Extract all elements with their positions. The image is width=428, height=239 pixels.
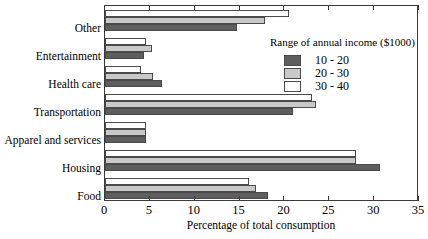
bar (105, 178, 249, 185)
legend-label: 30 - 40 (315, 80, 349, 93)
bar (105, 129, 146, 136)
x-axis-tick-top (104, 5, 105, 10)
x-axis-tick (418, 196, 419, 201)
x-axis-tick-top (194, 5, 195, 10)
x-axis-title: Percentage of total consumption (104, 219, 418, 232)
y-axis-label: Entertainment (36, 50, 101, 62)
bar (105, 108, 293, 115)
x-axis-tick (104, 196, 105, 201)
legend-item: 20 - 30 (284, 67, 420, 80)
bar (105, 122, 146, 129)
y-axis-label: Health care (48, 78, 101, 90)
bar (105, 150, 356, 157)
bar-chart: FoodHousingApparel and servicesTransport… (0, 0, 428, 239)
legend-swatch-icon (284, 55, 301, 66)
x-axis-tick (149, 196, 150, 201)
x-axis-tick-label: 5 (146, 203, 152, 217)
y-axis-category-labels: FoodHousingApparel and servicesTransport… (0, 0, 101, 206)
legend-swatch-icon (284, 81, 301, 92)
x-axis-tick (283, 196, 284, 201)
x-axis-tick-label: 20 (277, 203, 290, 217)
bar (105, 17, 265, 24)
x-axis-tick-top (418, 5, 419, 10)
bar (105, 45, 152, 52)
x-axis-tick-top (149, 5, 150, 10)
x-axis-tick (373, 196, 374, 201)
legend-items: 10 - 2020 - 3030 - 40 (284, 54, 420, 93)
x-axis-tick-top (373, 5, 374, 10)
x-axis-tick-top (328, 5, 329, 10)
x-axis-tick (239, 196, 240, 201)
bar (105, 73, 153, 80)
legend-swatch-icon (284, 68, 301, 79)
legend-title: Range of annual income ($1000) (270, 36, 420, 49)
y-axis-label: Apparel and services (5, 134, 101, 146)
bar (105, 38, 146, 45)
x-axis-tick-top (283, 5, 284, 10)
legend-item: 30 - 40 (284, 80, 420, 93)
bar (105, 185, 256, 192)
x-axis-tick-label: 25 (322, 203, 335, 217)
y-axis-label: Housing (62, 162, 101, 174)
bar (105, 136, 146, 143)
y-axis-label: Transportation (34, 106, 101, 118)
x-axis-tick-label: 0 (101, 203, 107, 217)
x-axis-tick-label: 30 (367, 203, 380, 217)
y-axis-label: Food (77, 190, 101, 202)
y-axis-label: Other (75, 22, 101, 34)
x-axis-tick-top (239, 5, 240, 10)
bar (105, 10, 289, 17)
bar (105, 101, 316, 108)
bar (105, 157, 356, 164)
plot-area (104, 5, 418, 201)
bar (105, 24, 237, 31)
x-axis-tick (194, 196, 195, 201)
bar (105, 164, 380, 171)
bar (105, 80, 162, 87)
legend: Range of annual income ($1000) 10 - 2020… (272, 36, 420, 93)
x-axis-tick-label: 15 (232, 203, 245, 217)
bar (105, 192, 268, 199)
bar (105, 94, 312, 101)
x-axis-tick-label: 35 (412, 203, 425, 217)
legend-item: 10 - 20 (284, 54, 420, 67)
x-axis-tick (328, 196, 329, 201)
bar (105, 52, 144, 59)
x-axis-tick-label: 10 (187, 203, 200, 217)
bar (105, 66, 141, 73)
